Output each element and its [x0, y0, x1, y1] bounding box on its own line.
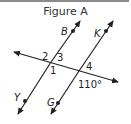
label-G: G	[47, 97, 55, 108]
angle-4-label: 4	[86, 61, 92, 72]
label-Y: Y	[14, 92, 21, 103]
angle-2-label: 2	[42, 51, 48, 62]
angle-110-label: 110°	[78, 79, 102, 90]
point-K	[104, 29, 108, 33]
geometry-diagram: B K Y G 2 3 1 4 110°	[0, 0, 131, 124]
transversal-line	[14, 52, 118, 82]
point-G	[56, 101, 60, 105]
angle-1-label: 1	[50, 65, 56, 76]
angle-3-label: 3	[57, 52, 63, 63]
point-Y	[23, 99, 27, 103]
point-B	[71, 29, 75, 33]
label-K: K	[94, 28, 102, 39]
label-B: B	[61, 26, 68, 37]
